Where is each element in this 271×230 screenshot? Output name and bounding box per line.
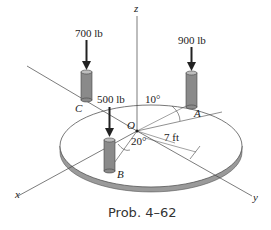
post-a xyxy=(186,71,197,109)
origin-point xyxy=(136,130,139,133)
circular-plate xyxy=(60,105,242,192)
origin-label: O xyxy=(127,119,135,131)
arrow-700 xyxy=(82,40,91,70)
post-c xyxy=(81,70,92,102)
force-a-label: 900 lb xyxy=(178,34,206,46)
angle-20-label: 20° xyxy=(131,135,146,147)
point-c-label: C xyxy=(75,102,83,114)
angle-10-label: 10° xyxy=(145,93,160,105)
y-axis-label: y xyxy=(252,191,258,203)
radius-label: 7 ft xyxy=(164,131,179,143)
x-axis-label: x xyxy=(14,188,20,200)
caption: Prob. 4–62 xyxy=(108,205,176,220)
point-a-label: A xyxy=(193,107,201,119)
post-b xyxy=(104,138,115,173)
z-axis-label: z xyxy=(133,2,139,14)
force-diagram: 700 lb 500 lb 900 lb z x y C B A O 10° 2… xyxy=(0,0,271,230)
force-c-label: 700 lb xyxy=(75,27,103,39)
force-b-label: 500 lb xyxy=(97,93,125,105)
point-b-label: B xyxy=(117,168,124,180)
arrow-900 xyxy=(187,47,196,71)
